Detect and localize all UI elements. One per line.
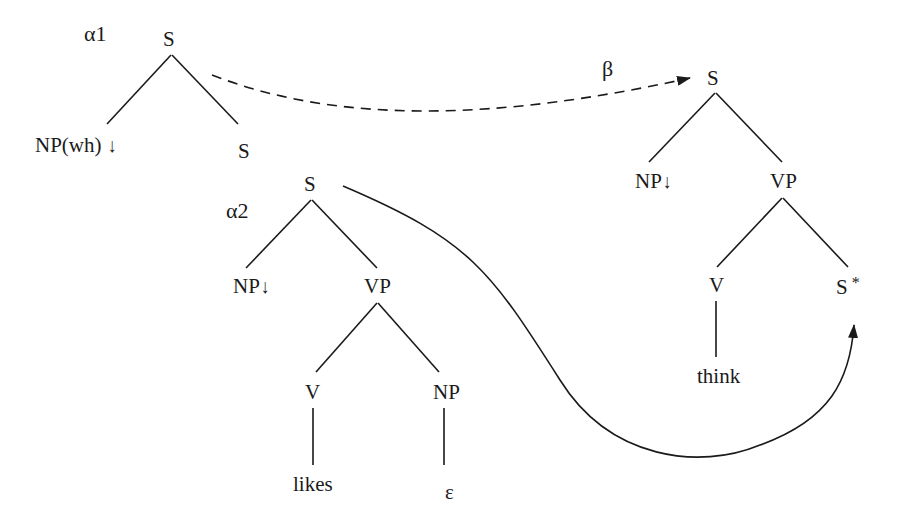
- beta-np: NP↓: [635, 171, 672, 192]
- beta-root-s: S: [707, 68, 719, 89]
- alpha1-np-wh: NP(wh) ↓: [35, 135, 117, 156]
- beta-word-think: think: [697, 366, 740, 387]
- alpha1-root-s: S: [163, 29, 175, 50]
- alpha1-s-child: S: [238, 141, 250, 162]
- beta-foot-s: S*: [836, 275, 860, 298]
- alpha2-label: α2: [226, 200, 249, 222]
- alpha2-root-s: S: [304, 174, 316, 195]
- alpha2-obj-np: NP: [433, 382, 460, 403]
- beta-v: V: [709, 275, 724, 296]
- alpha2-word-epsilon: ε: [445, 482, 454, 503]
- alpha2-v: V: [305, 382, 320, 403]
- substitution-arrow-icon: ↓: [261, 276, 270, 296]
- alpha2-vp: VP: [364, 276, 391, 297]
- alpha2-np: NP↓: [233, 276, 270, 297]
- alpha2-word-likes: likes: [293, 474, 333, 495]
- tag-derivation-diagram: α1 S NP(wh) ↓ S β S NP↓ VP V S* think α2…: [0, 0, 900, 525]
- beta-vp: VP: [770, 171, 797, 192]
- substitution-arrow-icon: ↓: [663, 171, 672, 191]
- substitution-arrow-icon: ↓: [108, 135, 117, 155]
- beta-label: β: [602, 58, 613, 80]
- tree-edges: [0, 0, 900, 525]
- alpha1-label: α1: [84, 23, 107, 45]
- foot-node-star-icon: *: [852, 274, 860, 291]
